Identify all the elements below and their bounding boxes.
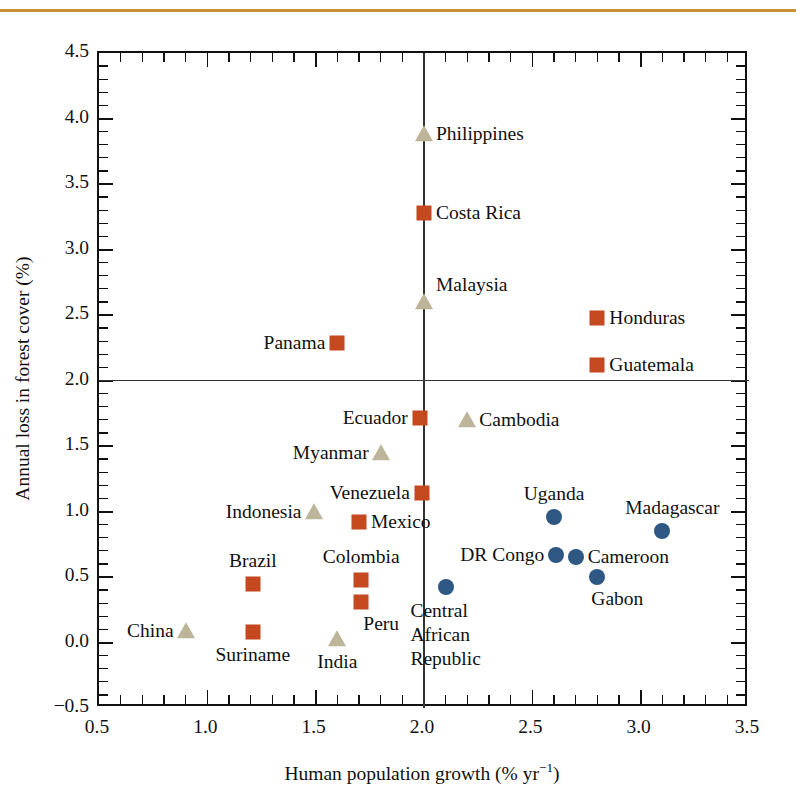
y-axis-tick: [736, 65, 745, 66]
x-axis-title: Human population growth (% yr−1): [97, 760, 747, 785]
x-axis-tick: [488, 695, 489, 704]
x-axis-tick: [640, 53, 642, 67]
y-axis-tick: [99, 131, 108, 132]
data-point-label: Colombia: [323, 545, 400, 566]
data-point-label: Venezuela: [330, 482, 410, 503]
y-axis-tick: [736, 485, 745, 486]
x-axis-tick: [142, 695, 143, 704]
y-axis-tick: [736, 616, 745, 617]
x-axis-tick: [532, 690, 534, 704]
y-axis-tick: [736, 629, 745, 630]
data-point-marker[interactable]: [590, 357, 605, 372]
y-axis-tick: [99, 629, 108, 630]
y-axis-tick: [99, 327, 108, 328]
y-axis-tick: [99, 249, 113, 251]
y-axis-tick: [99, 210, 108, 211]
data-point-marker[interactable]: [414, 486, 429, 501]
data-point-marker[interactable]: [354, 572, 369, 587]
y-axis-tick: [99, 563, 108, 564]
data-point-marker[interactable]: [546, 509, 562, 525]
data-point-marker[interactable]: [458, 411, 476, 427]
data-point-marker[interactable]: [372, 444, 390, 460]
y-axis-tick: [99, 445, 113, 447]
y-axis-tick: [99, 694, 108, 695]
x-axis-tick: [272, 695, 273, 704]
y-axis-tick: [736, 288, 745, 289]
y-axis-tick: [99, 183, 113, 185]
figure-root: PhilippinesCosta RicaMalaysiaHondurasGua…: [0, 0, 796, 803]
data-point-marker[interactable]: [589, 569, 605, 585]
data-point-marker[interactable]: [412, 411, 427, 426]
data-point-label: Honduras: [609, 307, 685, 328]
y-axis-tick: [736, 550, 745, 551]
y-axis-tick: [99, 576, 113, 578]
y-axis-tick: [736, 223, 745, 224]
data-point-label: Guatemala: [609, 354, 693, 375]
y-axis-tick: [736, 655, 745, 656]
y-axis-tick: [736, 275, 745, 276]
data-point-marker[interactable]: [354, 594, 369, 609]
y-axis-tick: [736, 92, 745, 93]
y-axis-tick: [736, 236, 745, 237]
x-axis-tick: [207, 53, 209, 67]
y-axis-tick: [99, 524, 108, 525]
x-axis-tick: [575, 53, 576, 62]
y-axis-tick: [99, 236, 108, 237]
y-axis-tick: [736, 341, 745, 342]
y-axis-tick: [99, 537, 108, 538]
y-axis-tick: [99, 65, 108, 66]
x-axis-tick: [163, 695, 164, 704]
data-point-marker[interactable]: [245, 576, 260, 591]
data-point-label: DR Congo: [460, 544, 544, 565]
y-axis-tick: [99, 301, 108, 302]
x-axis-tick: [662, 695, 663, 704]
x-axis-tick: [142, 53, 143, 62]
data-point-marker[interactable]: [305, 503, 323, 519]
y-axis-tick: [99, 105, 108, 106]
y-axis-tick: [99, 498, 108, 499]
y-axis-tick: [736, 354, 745, 355]
data-point-marker[interactable]: [417, 205, 432, 220]
data-point-label: Philippines: [436, 124, 524, 145]
x-axis-tick-label: 3.0: [626, 716, 650, 738]
data-point-marker[interactable]: [438, 579, 454, 595]
data-point-marker[interactable]: [654, 523, 670, 539]
y-axis-tick: [731, 511, 745, 513]
y-axis-tick: [99, 419, 108, 420]
y-axis-tick: [99, 472, 108, 473]
y-axis-tick: [99, 341, 108, 342]
x-axis-tick: [683, 695, 684, 704]
x-axis-tick-label: 3.5: [735, 716, 759, 738]
data-point-marker[interactable]: [330, 335, 345, 350]
x-axis-tick: [228, 53, 229, 62]
y-axis-tick: [736, 589, 745, 590]
y-axis-tick: [99, 223, 108, 224]
data-point-marker[interactable]: [548, 547, 564, 563]
x-axis-tick: [272, 53, 273, 62]
x-axis-tick: [358, 53, 359, 62]
data-point-marker[interactable]: [415, 293, 433, 309]
data-point-marker[interactable]: [352, 514, 367, 529]
data-point-label: Madagascar: [625, 497, 719, 518]
y-axis-tick: [731, 249, 745, 251]
y-axis-tick: [731, 314, 745, 316]
data-point-label: Mexico: [371, 511, 431, 532]
data-point-marker[interactable]: [568, 549, 584, 565]
x-axis-tick: [380, 53, 381, 62]
x-axis-tick: [207, 690, 209, 704]
data-point-label: Panama: [264, 332, 326, 353]
data-point-marker[interactable]: [328, 630, 346, 646]
data-point-marker[interactable]: [177, 622, 195, 638]
data-point-marker[interactable]: [415, 125, 433, 141]
y-axis-tick: [736, 131, 745, 132]
y-axis-tick: [736, 694, 745, 695]
y-axis-tick: [736, 144, 745, 145]
y-axis-tick: [736, 301, 745, 302]
y-axis-tick: [99, 406, 108, 407]
data-point-label: Ecuador: [343, 408, 408, 429]
data-point-marker[interactable]: [245, 625, 260, 640]
x-axis-tick: [727, 695, 728, 704]
x-axis-tick: [445, 53, 446, 62]
x-axis-title-tail: ): [553, 763, 560, 784]
data-point-marker[interactable]: [590, 310, 605, 325]
